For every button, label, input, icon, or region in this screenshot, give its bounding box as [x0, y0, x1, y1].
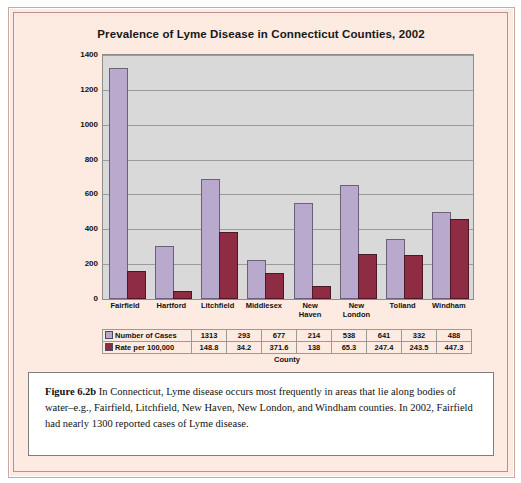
x-axis-category-labels: FairfieldHartfordLitchfieldMiddlesexNewH…	[102, 301, 472, 327]
legend-label-rate: Rate per 100,000	[115, 343, 174, 352]
y-tick-0: 0	[94, 294, 98, 303]
bar-rate-0	[127, 271, 146, 299]
bar-cases-0	[109, 68, 128, 299]
cell-cases-1: 293	[227, 330, 262, 342]
page-root: Prevalence of Lyme Disease in Connecticu…	[0, 0, 521, 483]
legend-row-cases: Number of Cases	[103, 330, 192, 342]
legend-swatch-cases-icon	[105, 331, 113, 339]
bar-rate-7	[450, 219, 469, 299]
figure-caption-box: Figure 6.2b In Connecticut, Lyme disease…	[28, 372, 494, 456]
x-label-0: Fairfield	[102, 301, 148, 310]
x-label-7: Windham	[426, 301, 472, 310]
cell-cases-7: 488	[437, 330, 472, 342]
cell-rate-5: 247.4	[367, 342, 402, 354]
bar-cases-1	[155, 246, 174, 299]
chart-title: Prevalence of Lyme Disease in Connecticu…	[28, 28, 494, 40]
bar-cases-5	[340, 185, 359, 299]
bar-cases-2	[201, 179, 220, 299]
bar-rate-3	[265, 273, 284, 299]
cell-cases-4: 538	[332, 330, 367, 342]
y-tick-1200: 1200	[80, 84, 98, 93]
x-label-3: Middlesex	[241, 301, 287, 310]
y-axis-tick-labels: 0 200 400 600 800 1000 1200 1400	[56, 54, 100, 298]
table-row: Rate per 100,000 148.8 34.2 371.6 138 65…	[103, 342, 472, 354]
y-tick-1400: 1400	[80, 50, 98, 59]
cell-rate-4: 65.3	[332, 342, 367, 354]
cell-cases-0: 1313	[192, 330, 227, 342]
y-tick-800: 800	[85, 154, 98, 163]
plot-area	[102, 54, 474, 300]
cell-rate-0: 148.8	[192, 342, 227, 354]
bar-rate-5	[358, 254, 377, 299]
bar-rate-6	[404, 255, 423, 299]
bar-cases-6	[386, 239, 405, 299]
cell-rate-1: 34.2	[227, 342, 262, 354]
legend-swatch-rate-icon	[105, 343, 113, 351]
x-label-4: NewHaven	[287, 301, 333, 319]
bar-series-group	[103, 55, 473, 299]
figure-caption-text: In Connecticut, Lyme disease occurs most…	[45, 386, 473, 429]
cell-rate-2: 371.6	[262, 342, 297, 354]
y-tick-400: 400	[85, 224, 98, 233]
bar-cases-4	[294, 203, 313, 299]
cell-cases-2: 677	[262, 330, 297, 342]
bar-cases-7	[432, 212, 451, 299]
x-label-1: Hartford	[148, 301, 194, 310]
data-table: Number of Cases 1313 293 677 214 538 641…	[102, 329, 472, 354]
x-label-2: Litchfield	[195, 301, 241, 310]
figure-caption: Figure 6.2b In Connecticut, Lyme disease…	[45, 384, 477, 432]
x-label-6: Tolland	[380, 301, 426, 310]
bar-rate-1	[173, 291, 192, 299]
bar-rate-4	[312, 286, 331, 299]
legend-label-cases: Number of Cases	[115, 331, 177, 340]
y-tick-200: 200	[85, 259, 98, 268]
y-tick-1000: 1000	[80, 119, 98, 128]
chart-container: Prevalence of Lyme Disease in Connecticu…	[28, 22, 494, 364]
legend-row-rate: Rate per 100,000	[103, 342, 192, 354]
cell-rate-7: 447.3	[437, 342, 472, 354]
y-tick-600: 600	[85, 189, 98, 198]
x-label-5: NewLondon	[333, 301, 379, 319]
figure-label: Figure 6.2b	[45, 386, 96, 397]
cell-cases-3: 214	[297, 330, 332, 342]
bar-rate-2	[219, 232, 238, 299]
bar-cases-3	[247, 260, 266, 299]
cell-cases-6: 332	[402, 330, 437, 342]
cell-rate-3: 138	[297, 342, 332, 354]
cell-cases-5: 641	[367, 330, 402, 342]
x-axis-title: County	[102, 355, 472, 364]
table-row: Number of Cases 1313 293 677 214 538 641…	[103, 330, 472, 342]
cell-rate-6: 243.5	[402, 342, 437, 354]
